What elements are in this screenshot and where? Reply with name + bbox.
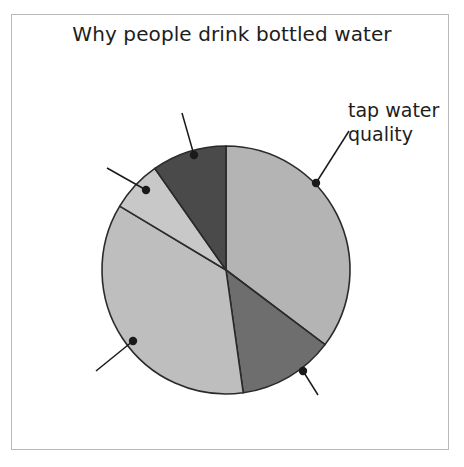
slice-marker-dot-slice-3 xyxy=(129,337,137,345)
slice-marker-dot-slice-5 xyxy=(190,151,198,159)
slice-marker-dot-tap water quality xyxy=(312,179,320,187)
leader-line-1 xyxy=(316,131,349,183)
slice-label-tap-water-quality: tap water quality xyxy=(348,98,439,147)
slice-marker-dot-slice-4 xyxy=(142,186,150,194)
slice-marker-dot-slice-2 xyxy=(299,367,307,375)
leader-line-2 xyxy=(303,371,318,395)
slice-label-line1: tap water xyxy=(348,99,439,121)
leader-line-3 xyxy=(96,341,133,371)
leader-line-5 xyxy=(182,113,194,155)
leader-line-4 xyxy=(107,168,146,190)
pie-chart xyxy=(0,0,464,467)
slice-label-line2: quality xyxy=(348,122,439,146)
